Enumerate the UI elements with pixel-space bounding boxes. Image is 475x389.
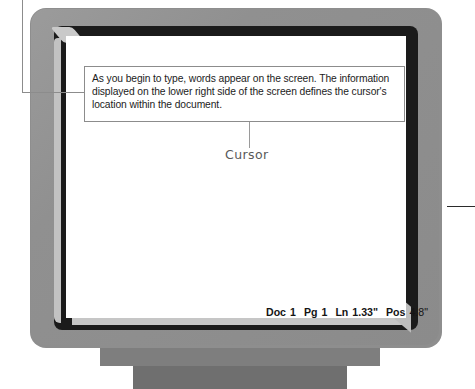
status-ln-value: 1.33" [352,306,378,318]
monitor-stand-neck [100,348,380,366]
status-doc-label: Doc [266,306,286,318]
status-pg-label: Pg [304,306,318,318]
status-bar: Doc1Pg1Ln1.33"Pos4.8" [266,306,428,318]
status-pos-value: 4.8" [409,306,428,318]
monitor-stand-base [133,366,347,389]
callout-leader-right [447,206,475,207]
callout-leader-vertical [22,0,23,92]
status-pos-label: Pos [386,306,405,318]
monitor-illustration: Cursor Doc1Pg1Ln1.33"Pos4.8" As you begi… [0,0,475,389]
callout-leader-horizontal [22,92,84,93]
caption-text: As you begin to type, words appear on th… [92,72,398,112]
status-doc-value: 1 [290,306,296,318]
cursor-label: Cursor [225,147,269,162]
status-ln-label: Ln [335,306,348,318]
status-pg-value: 1 [321,306,327,318]
bezel-chamfer-left [54,38,61,323]
bezel-chamfer-bottom [72,318,402,325]
caption-box: As you begin to type, words appear on th… [84,66,405,122]
